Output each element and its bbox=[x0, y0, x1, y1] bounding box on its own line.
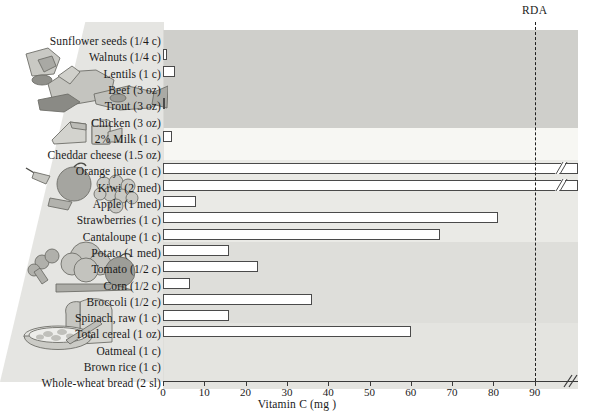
category-label: Total cereal (1 oz) bbox=[75, 326, 161, 343]
bar bbox=[163, 229, 440, 240]
category-label: Whole-wheat bread (2 sl) bbox=[41, 375, 161, 392]
category-label: Oatmeal (1 c) bbox=[96, 343, 161, 360]
x-axis-line bbox=[163, 381, 578, 382]
x-tick-label: 60 bbox=[405, 386, 416, 398]
bar bbox=[163, 66, 175, 77]
rda-label: RDA bbox=[522, 4, 547, 16]
bar bbox=[163, 163, 578, 174]
category-label: Brown rice (1 c) bbox=[84, 359, 161, 376]
x-tick-label: 10 bbox=[199, 386, 210, 398]
category-label: Beef (3 oz) bbox=[108, 82, 161, 99]
category-label: Broccoli (1/2 c) bbox=[87, 294, 161, 311]
band-dairy bbox=[163, 128, 578, 161]
bar bbox=[163, 180, 578, 191]
category-label: Cantaloupe (1 c) bbox=[83, 229, 161, 246]
x-tick-label: 70 bbox=[447, 386, 458, 398]
category-label: Lentils (1 c) bbox=[103, 66, 161, 83]
category-label: Tomato (1/2 c) bbox=[91, 261, 161, 278]
x-axis-title: Vitamin C (mg ) bbox=[0, 398, 594, 410]
bar bbox=[163, 261, 258, 272]
bar bbox=[163, 310, 229, 321]
axis-break-symbol bbox=[561, 374, 581, 388]
bar bbox=[163, 196, 196, 207]
category-label: Trout (3 oz) bbox=[105, 98, 161, 115]
x-tick-label: 80 bbox=[488, 386, 499, 398]
category-label: 2% Milk (1 c) bbox=[95, 131, 161, 148]
bar bbox=[163, 278, 190, 289]
x-tick-label: 0 bbox=[160, 386, 166, 398]
bar bbox=[163, 245, 229, 256]
band-nuts-legumes bbox=[163, 30, 578, 128]
bar bbox=[163, 49, 167, 60]
x-tick-label: 90 bbox=[529, 386, 540, 398]
category-label: Corn (1/2 c) bbox=[104, 278, 161, 295]
category-label: Orange juice (1 c) bbox=[76, 163, 161, 180]
category-label: Walnuts (1/4 c) bbox=[89, 49, 161, 66]
category-label: Strawberries (1 c) bbox=[77, 212, 161, 229]
bar bbox=[163, 98, 165, 109]
category-label: Kiwi (2 med) bbox=[98, 180, 161, 197]
category-label: Potato (1 med) bbox=[91, 245, 161, 262]
category-label: Sunflower seeds (1/4 c) bbox=[50, 33, 161, 50]
category-label: Chicken (3 oz) bbox=[91, 115, 161, 132]
bar bbox=[163, 294, 312, 305]
x-tick-label: 50 bbox=[364, 386, 375, 398]
x-tick-label: 30 bbox=[281, 386, 292, 398]
x-tick-label: 40 bbox=[323, 386, 334, 398]
rda-line bbox=[535, 22, 536, 381]
category-label: Cheddar cheese (1.5 oz) bbox=[48, 147, 161, 164]
x-tick-label: 20 bbox=[240, 386, 251, 398]
bar bbox=[163, 212, 498, 223]
category-label: Apple (1 med) bbox=[93, 196, 161, 213]
bar bbox=[163, 326, 411, 337]
category-label: Spinach, raw (1 c) bbox=[75, 310, 161, 327]
bar bbox=[163, 131, 172, 142]
